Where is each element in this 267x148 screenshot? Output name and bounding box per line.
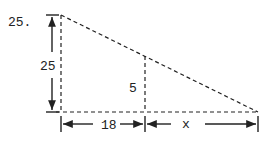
triangle-outline xyxy=(56,15,258,112)
inner-height-label-5: 5 xyxy=(129,81,137,96)
base-dimensions xyxy=(61,116,258,132)
problem-number: 25. xyxy=(8,15,31,30)
similar-triangles-diagram: 25. 25 5 18 x xyxy=(0,0,267,148)
height-label-25: 25 xyxy=(40,59,56,74)
base-label-x: x xyxy=(182,117,190,132)
base-label-18: 18 xyxy=(101,118,117,133)
hypotenuse xyxy=(61,15,258,112)
